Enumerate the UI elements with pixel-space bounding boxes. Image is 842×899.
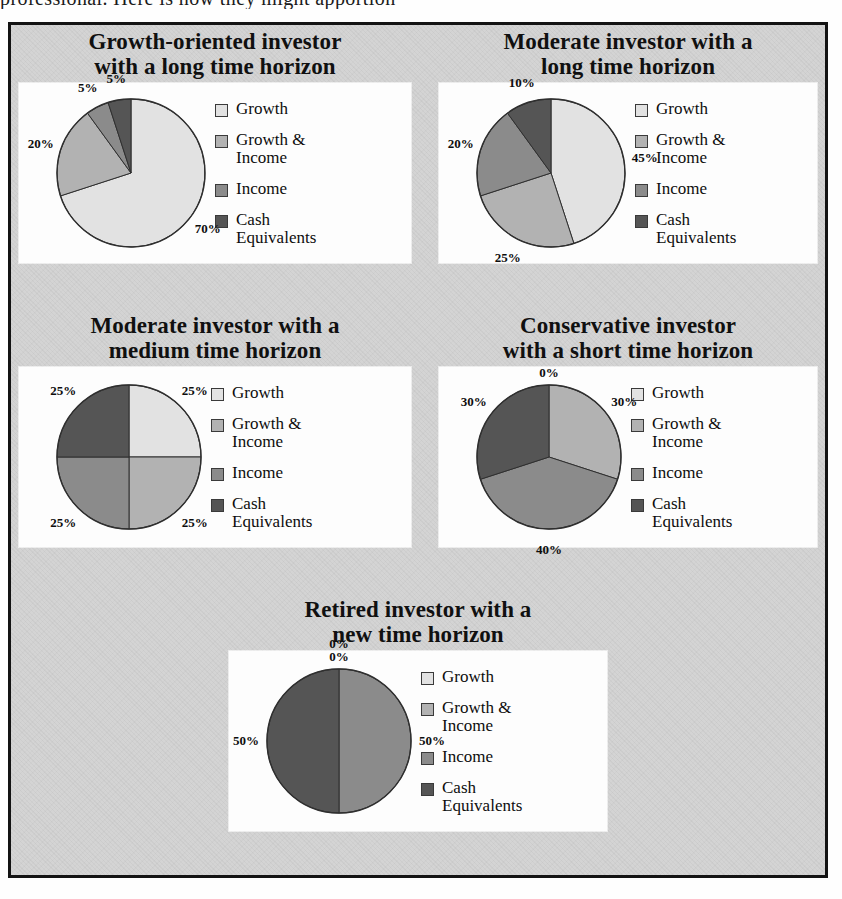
- pie-chart: [467, 375, 631, 539]
- pie-slice-label-growth-income: 30%: [611, 394, 637, 410]
- legend-swatch-growth-income-icon: [215, 135, 228, 148]
- figure-page: professional. Here is how they might app…: [0, 0, 842, 899]
- legend-item-growth-income[interactable]: Growth & Income: [211, 415, 411, 451]
- chart-panel-4: Conservative investorwith a short time h…: [439, 313, 817, 547]
- chart-panel-1: Growth-oriented investorwith a long time…: [19, 29, 411, 263]
- pie-slice-label-cash-equivalents: 50%: [233, 733, 259, 749]
- legend-item-growth[interactable]: Growth: [215, 100, 411, 118]
- pie-slice-label-growth-income: 20%: [28, 136, 54, 152]
- pie-slice-label-cash-equivalents: 30%: [461, 394, 487, 410]
- pie-area: 45%25%20%10%: [467, 89, 635, 257]
- legend-label: Growth & Income: [652, 415, 721, 451]
- cutoff-body-text: professional. Here is how they might app…: [0, 0, 842, 9]
- legend-swatch-income-icon: [211, 468, 224, 481]
- chart-legend: GrowthGrowth & IncomeIncomeCash Equivale…: [215, 100, 411, 247]
- legend-label: Income: [652, 464, 703, 482]
- pie-slice-label-growth: 70%: [195, 221, 221, 237]
- legend-label: Income: [656, 180, 707, 198]
- chart-title: Retired investor with anew time horizon: [229, 597, 607, 647]
- legend-item-growth[interactable]: Growth: [421, 668, 607, 686]
- pie-slice-label-income: 25%: [50, 515, 76, 531]
- chart-title-line: new time horizon: [229, 622, 607, 647]
- legend-label: Growth & Income: [442, 699, 511, 735]
- pie-slice-label-growth: 0%: [539, 365, 559, 381]
- legend-item-cash-equivalents[interactable]: Cash Equivalents: [635, 211, 817, 247]
- legend-label: Income: [442, 748, 493, 766]
- pie-slice-label-income: 50%: [419, 733, 445, 749]
- legend-item-income[interactable]: Income: [211, 464, 411, 482]
- legend-swatch-growth-icon: [215, 104, 228, 117]
- legend-label: Growth & Income: [232, 415, 301, 451]
- legend-label: Growth: [652, 384, 704, 402]
- legend-label: Cash Equivalents: [652, 495, 732, 531]
- legend-item-cash-equivalents[interactable]: Cash Equivalents: [421, 779, 607, 815]
- legend-label: Cash Equivalents: [656, 211, 736, 247]
- legend-item-income[interactable]: Income: [631, 464, 817, 482]
- legend-label: Growth: [236, 100, 288, 118]
- legend-item-cash-equivalents[interactable]: Cash Equivalents: [215, 211, 411, 247]
- pie-area: 70%20%5%5%: [47, 89, 215, 257]
- pie-slice-cash-equivalents: [267, 669, 339, 813]
- chart-title-line: Retired investor with a: [229, 597, 607, 622]
- legend-item-growth-income[interactable]: Growth & Income: [215, 131, 411, 167]
- chart-title-line: with a short time horizon: [439, 338, 817, 363]
- legend-item-cash-equivalents[interactable]: Cash Equivalents: [211, 495, 411, 531]
- legend-label: Growth & Income: [236, 131, 305, 167]
- pie-slice-label-growth-income: 0%: [329, 636, 349, 652]
- legend-label: Growth: [232, 384, 284, 402]
- pie-area: 0%30%40%30%: [467, 375, 631, 539]
- figure-frame: Growth-oriented investorwith a long time…: [8, 22, 828, 878]
- chart-panel-3: Moderate investor with amedium time hori…: [19, 313, 411, 547]
- legend-item-growth[interactable]: Growth: [631, 384, 817, 402]
- pie-chart: [467, 89, 635, 257]
- legend-label: Cash Equivalents: [442, 779, 522, 815]
- pie-slice-label-growth: 45%: [632, 150, 658, 166]
- chart-title-line: Moderate investor with a: [439, 29, 817, 54]
- legend-item-growth[interactable]: Growth: [211, 384, 411, 402]
- legend-item-growth-income[interactable]: Growth & Income: [631, 415, 817, 451]
- legend-item-cash-equivalents[interactable]: Cash Equivalents: [631, 495, 817, 531]
- chart-card: 70%20%5%5%GrowthGrowth & IncomeIncomeCas…: [19, 83, 411, 263]
- pie-slice-label-income: 5%: [78, 80, 98, 96]
- pie-slice-income: [339, 669, 411, 813]
- chart-title: Conservative investorwith a short time h…: [439, 313, 817, 363]
- legend-swatch-income-icon: [215, 184, 228, 197]
- chart-legend: GrowthGrowth & IncomeIncomeCash Equivale…: [635, 100, 817, 247]
- chart-title-line: with a long time horizon: [19, 54, 411, 79]
- chart-title-line: Conservative investor: [439, 313, 817, 338]
- pie-slice-label-income: 40%: [536, 542, 562, 558]
- legend-item-income[interactable]: Income: [421, 748, 607, 766]
- legend-swatch-growth-icon: [421, 672, 434, 685]
- legend-item-growth-income[interactable]: Growth & Income: [635, 131, 817, 167]
- legend-item-growth[interactable]: Growth: [635, 100, 817, 118]
- legend-swatch-growth-income-icon: [635, 135, 648, 148]
- chart-title-line: long time horizon: [439, 54, 817, 79]
- legend-label: Cash Equivalents: [232, 495, 312, 531]
- pie-slice-label-cash-equivalents: 10%: [509, 75, 535, 91]
- legend-swatch-income-icon: [635, 184, 648, 197]
- legend-item-income[interactable]: Income: [635, 180, 817, 198]
- chart-legend: GrowthGrowth & IncomeIncomeCash Equivale…: [421, 668, 607, 815]
- chart-card: 45%25%20%10%GrowthGrowth & IncomeIncomeC…: [439, 83, 817, 263]
- legend-item-income[interactable]: Income: [215, 180, 411, 198]
- chart-title-line: Growth-oriented investor: [19, 29, 411, 54]
- pie-chart: [47, 89, 215, 257]
- chart-title: Moderate investor with along time horizo…: [439, 29, 817, 79]
- chart-card: 0%0%50%50%GrowthGrowth & IncomeIncomeCas…: [229, 651, 607, 831]
- legend-swatch-growth-income-icon: [421, 703, 434, 716]
- pie-slice-label-growth-income: 25%: [495, 250, 521, 266]
- legend-label: Growth: [656, 100, 708, 118]
- chart-title-line: Moderate investor with a: [19, 313, 411, 338]
- pie-area: 25%25%25%25%: [47, 375, 211, 539]
- chart-title: Moderate investor with amedium time hori…: [19, 313, 411, 363]
- legend-label: Growth: [442, 668, 494, 686]
- panel-grid: Growth-oriented investorwith a long time…: [11, 25, 825, 875]
- chart-card: 25%25%25%25%GrowthGrowth & IncomeIncomeC…: [19, 367, 411, 547]
- pie-slice-label-growth: 25%: [182, 383, 208, 399]
- legend-swatch-income-icon: [421, 752, 434, 765]
- legend-swatch-growth-income-icon: [631, 419, 644, 432]
- legend-item-growth-income[interactable]: Growth & Income: [421, 699, 607, 735]
- chart-legend: GrowthGrowth & IncomeIncomeCash Equivale…: [211, 384, 411, 531]
- pie-slice-label-income: 20%: [448, 136, 474, 152]
- pie-chart: [257, 659, 421, 823]
